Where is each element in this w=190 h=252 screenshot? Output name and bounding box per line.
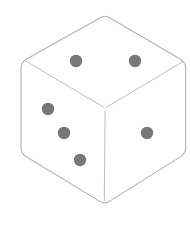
left-face-pip-2 [58,127,70,139]
left-face-pip-1 [42,103,54,115]
left-face-pip-3 [74,154,86,166]
top-face-pip-2 [129,55,141,67]
die-illustration [0,0,190,252]
top-face-pip-1 [70,55,82,67]
illustration-canvas [0,0,190,252]
right-face-pip-1 [141,127,153,139]
right-face-pips [141,127,153,139]
